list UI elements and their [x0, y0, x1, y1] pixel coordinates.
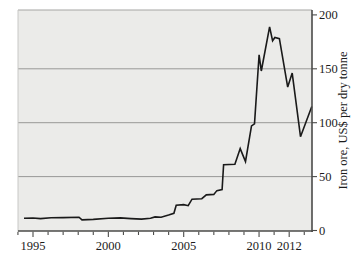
x-tick-label-2010: 2010: [247, 239, 272, 253]
iron-ore-price-chart: 19952000200520102012050100150200Iron ore…: [0, 0, 359, 268]
chart-canvas: 19952000200520102012050100150200Iron ore…: [0, 0, 359, 268]
y-tick-label-100: 100: [319, 116, 338, 130]
y-axis-title: Iron ore, US$ per dry tonne: [336, 51, 350, 190]
x-tick-label-1995: 1995: [21, 239, 46, 253]
y-tick-label-200: 200: [319, 8, 338, 22]
x-tick-label-2000: 2000: [96, 239, 121, 253]
y-tick-label-0: 0: [319, 224, 325, 238]
x-tick-label-2012: 2012: [277, 239, 302, 253]
x-tick-label-2005: 2005: [171, 239, 196, 253]
y-tick-label-150: 150: [319, 62, 338, 76]
y-tick-label-50: 50: [319, 170, 332, 184]
plot-area: [18, 10, 312, 231]
